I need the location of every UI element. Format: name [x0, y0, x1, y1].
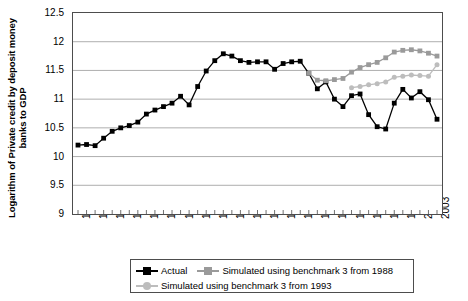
data-point-marker: [255, 59, 260, 64]
data-point-marker: [358, 65, 363, 70]
data-point-marker: [400, 74, 405, 79]
data-point-marker: [400, 87, 405, 92]
data-point-marker: [298, 59, 303, 64]
data-point-marker: [383, 79, 388, 84]
data-point-marker: [187, 102, 192, 107]
data-point-marker: [392, 101, 397, 106]
data-point-marker: [435, 62, 440, 67]
data-point-marker: [366, 62, 371, 67]
series-1: [76, 51, 440, 148]
legend-marker-simulated-1988: [197, 266, 219, 275]
data-point-marker: [375, 81, 380, 86]
data-point-marker: [264, 59, 269, 64]
legend-row-top: Actual Simulated using benchmark 3 from …: [136, 263, 403, 278]
legend-row-bottom: Simulated using benchmark 3 from 1993: [136, 278, 342, 293]
data-point-marker: [332, 97, 337, 102]
plot-area: [72, 12, 443, 215]
data-point-marker: [375, 124, 380, 129]
data-point-marker: [229, 54, 234, 59]
y-tick-label: 9: [30, 209, 64, 219]
data-point-marker: [332, 77, 337, 82]
data-point-marker: [383, 55, 388, 60]
data-point-marker: [323, 78, 328, 83]
series-line: [78, 54, 437, 146]
data-point-marker: [349, 85, 354, 90]
data-point-marker: [349, 93, 354, 98]
data-point-marker: [289, 59, 294, 64]
data-point-marker: [366, 112, 371, 117]
data-point-marker: [409, 73, 414, 78]
y-tick-label: 12.5: [30, 8, 64, 18]
data-point-marker: [153, 108, 158, 113]
data-point-marker: [409, 47, 414, 52]
data-point-marker: [118, 125, 123, 130]
data-point-marker: [341, 104, 346, 109]
data-point-marker: [76, 143, 81, 148]
chart-legend: Actual Simulated using benchmark 3 from …: [130, 259, 414, 293]
data-point-marker: [409, 96, 414, 101]
data-point-marker: [247, 60, 252, 65]
data-point-marker: [392, 50, 397, 55]
legend-marker-actual: [136, 266, 158, 275]
legend-label-simulated-1993: Simulated using benchmark 3 from 1993: [161, 280, 332, 291]
data-point-marker: [127, 123, 132, 128]
data-point-marker: [272, 67, 277, 72]
data-point-marker: [170, 101, 175, 106]
data-point-marker: [418, 89, 423, 94]
data-point-marker: [84, 142, 89, 147]
data-point-marker: [426, 97, 431, 102]
y-tick-label: 12: [30, 37, 64, 47]
data-point-marker: [135, 120, 140, 125]
data-point-marker: [161, 104, 166, 109]
data-point-marker: [315, 86, 320, 91]
data-point-marker: [358, 84, 363, 89]
data-point-marker: [418, 49, 423, 54]
chart-container: Logarithm of Private credit by deposit m…: [0, 0, 468, 301]
data-point-marker: [204, 69, 209, 74]
data-point-marker: [426, 74, 431, 79]
y-tick-label: 10.5: [30, 123, 64, 133]
legend-item-actual: Actual: [136, 265, 187, 276]
data-point-marker: [417, 73, 422, 78]
data-point-marker: [238, 58, 243, 63]
y-tick-label: 11.5: [30, 65, 64, 75]
data-point-marker: [400, 48, 405, 53]
y-axis-title: Logarithm of Private credit by deposit m…: [6, 16, 28, 221]
legend-marker-simulated-1993: [136, 281, 158, 290]
plot-svg: [73, 13, 442, 214]
data-point-marker: [426, 51, 431, 56]
data-point-marker: [366, 82, 371, 87]
data-point-marker: [144, 112, 149, 117]
data-point-marker: [435, 54, 440, 59]
legend-item-simulated-1993: Simulated using benchmark 3 from 1993: [136, 280, 332, 291]
y-tick-label: 11: [30, 94, 64, 104]
data-point-marker: [178, 94, 183, 99]
data-point-marker: [110, 129, 115, 134]
data-point-marker: [101, 136, 106, 141]
data-point-marker: [306, 71, 311, 76]
data-point-marker: [435, 117, 440, 122]
data-point-marker: [383, 127, 388, 132]
data-point-marker: [221, 51, 226, 56]
data-point-marker: [281, 61, 286, 66]
data-point-marker: [358, 92, 363, 97]
data-point-marker: [341, 76, 346, 81]
data-point-marker: [195, 84, 200, 89]
data-point-marker: [392, 75, 397, 80]
legend-label-actual: Actual: [161, 265, 187, 276]
y-tick-label: 9.5: [30, 180, 64, 190]
data-point-marker: [349, 70, 354, 75]
legend-label-simulated-1988: Simulated using benchmark 3 from 1988: [222, 265, 393, 276]
y-tick-label: 10: [30, 152, 64, 162]
data-point-marker: [315, 78, 320, 83]
data-point-marker: [212, 58, 217, 63]
data-point-marker: [93, 143, 98, 148]
data-point-marker: [375, 60, 380, 65]
legend-item-simulated-1988: Simulated using benchmark 3 from 1988: [197, 265, 393, 276]
